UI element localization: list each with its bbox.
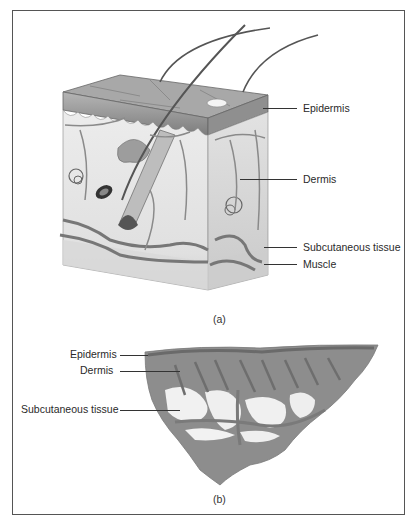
caption-b: (b) bbox=[213, 493, 226, 505]
leader-dermis-b bbox=[120, 371, 180, 372]
leader-subcutaneous-b bbox=[120, 410, 180, 411]
label-epidermis-b: Epidermis bbox=[70, 348, 117, 360]
label-subcutaneous-b: Subcutaneous tissue bbox=[21, 403, 118, 415]
skin-micrograph bbox=[0, 0, 415, 525]
label-dermis-b: Dermis bbox=[80, 364, 113, 376]
leader-epidermis-b bbox=[120, 355, 148, 356]
